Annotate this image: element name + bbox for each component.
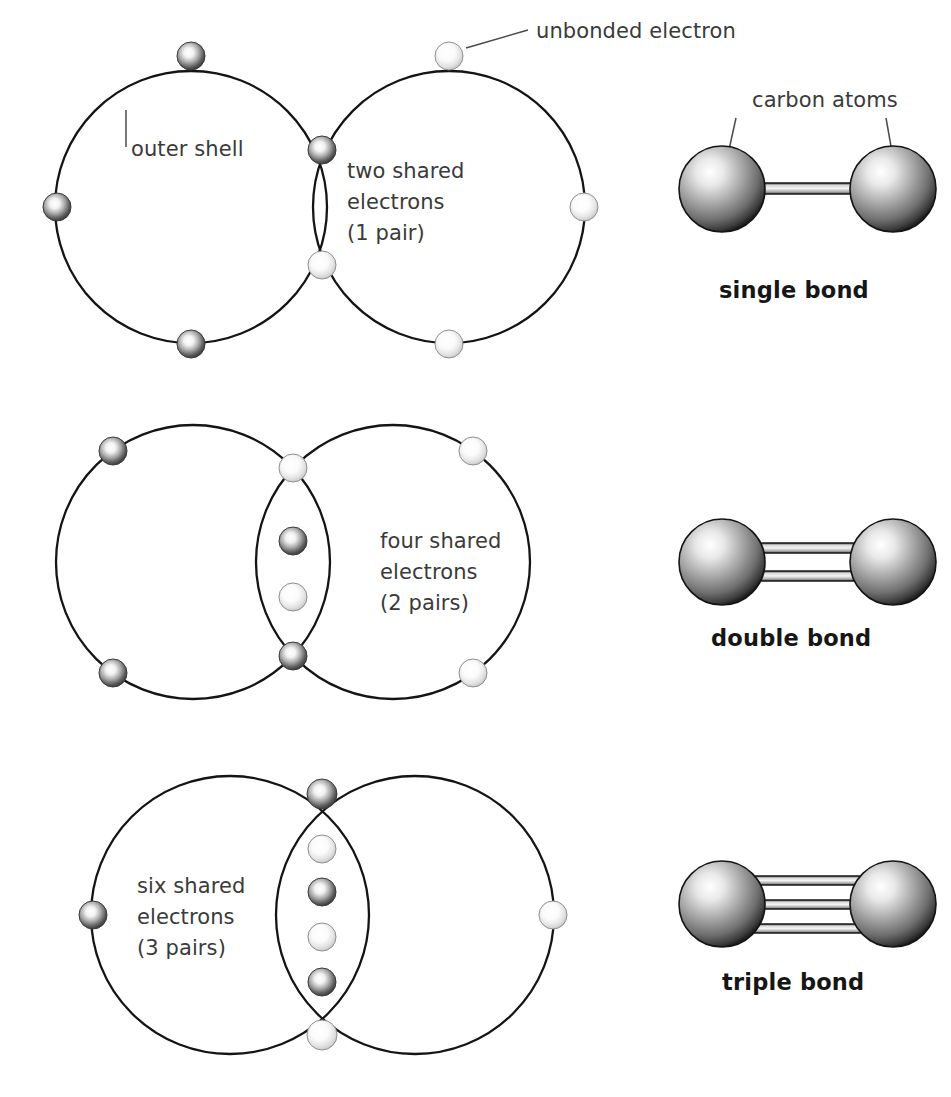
shell-diagram-single: [43, 42, 598, 358]
shared-electrons-label-line1: four shared: [380, 529, 502, 553]
diagram-canvas: outer shell unbonded electron two shared…: [0, 0, 951, 1097]
electron-dark: [177, 330, 205, 358]
shared-electrons-label-line2: electrons: [380, 560, 478, 584]
electron-dark: [79, 901, 107, 929]
shared-electrons-label-line3: (1 pair): [347, 221, 425, 245]
outer-shell-label: outer shell: [131, 137, 244, 161]
carbon-atom-sphere-left: [679, 861, 765, 947]
electron-shared-light: [308, 251, 336, 279]
electron-dark: [99, 659, 127, 687]
row-triple-bond: six shared electrons (3 pairs) triple bo…: [79, 776, 936, 1054]
shared-electrons-label-line2: electrons: [347, 190, 445, 214]
ball-stick-single: carbon atoms single bond: [679, 88, 936, 303]
shared-electrons-label-line3: (3 pairs): [137, 936, 226, 960]
electron-shared-light: [307, 1020, 337, 1050]
electron-shared-dark: [308, 968, 336, 996]
figure-root: outer shell unbonded electron two shared…: [0, 0, 951, 1097]
bond-type-label: double bond: [711, 625, 871, 651]
ball-stick-triple: triple bond: [679, 861, 936, 995]
electron-shared-dark: [307, 779, 337, 809]
electron-light: [435, 330, 463, 358]
row-single-bond: outer shell unbonded electron two shared…: [43, 19, 936, 358]
carbon-atom-sphere-right: [850, 861, 936, 947]
electron-shared-light: [279, 454, 307, 482]
electron-shared-dark: [308, 136, 336, 164]
row-double-bond: four shared electrons (2 pairs) double b…: [56, 425, 936, 699]
outer-shell-right: [276, 776, 554, 1054]
shared-electrons-label-line2: electrons: [137, 905, 235, 929]
electron-light: [435, 42, 463, 70]
carbon-atom-sphere-left: [679, 519, 765, 605]
electron-dark: [43, 193, 71, 221]
carbon-atom-sphere-right: [850, 519, 936, 605]
electron-shared-dark: [279, 527, 307, 555]
unbonded-electron-leader: [466, 30, 528, 48]
shared-electrons-label-line3: (2 pairs): [380, 591, 469, 615]
electron-light: [459, 437, 487, 465]
shared-electrons-label-line1: two shared: [347, 159, 464, 183]
electron-shared-dark: [308, 878, 336, 906]
electron-light: [459, 659, 487, 687]
electron-light: [570, 193, 598, 221]
electron-dark: [99, 437, 127, 465]
unbonded-electron-label: unbonded electron: [536, 19, 736, 43]
outer-shell-left: [55, 71, 327, 343]
electron-shared-dark: [279, 642, 307, 670]
electron-light: [539, 901, 567, 929]
electron-shared-light: [308, 923, 336, 951]
carbon-atom-sphere-right: [850, 146, 936, 232]
electron-dark: [177, 42, 205, 70]
carbon-atom-sphere-left: [679, 146, 765, 232]
bond-type-label: triple bond: [722, 969, 864, 995]
ball-stick-double: double bond: [679, 519, 936, 651]
electron-shared-light: [308, 835, 336, 863]
carbon-atoms-label: carbon atoms: [752, 88, 898, 112]
electron-shared-light: [279, 583, 307, 611]
bond-type-label: single bond: [719, 277, 869, 303]
shared-electrons-label-line1: six shared: [137, 874, 245, 898]
